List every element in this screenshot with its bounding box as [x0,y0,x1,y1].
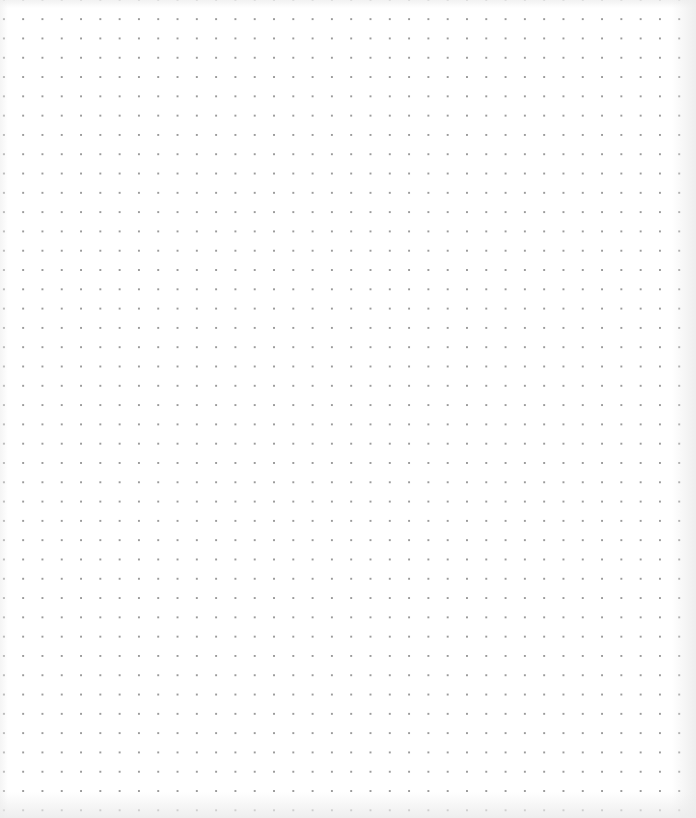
dot-grid-canvas[interactable] [0,0,696,818]
